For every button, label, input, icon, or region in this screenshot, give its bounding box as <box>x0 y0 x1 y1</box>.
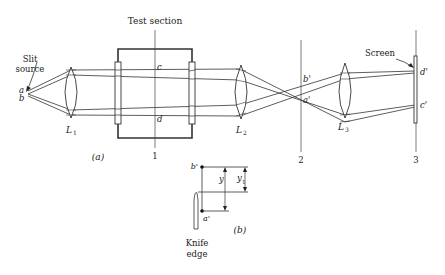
lens-L3-subscript: 3 <box>345 126 349 133</box>
screen <box>414 56 417 123</box>
point-b-prime-label: b' <box>303 74 311 84</box>
caption-a: (a) <box>92 152 105 162</box>
knife-label-2: edge <box>187 249 208 259</box>
point-d-prime-label: d' <box>420 67 428 77</box>
detail-b-prime-label: b' <box>191 162 198 171</box>
lens-L1 <box>65 67 77 118</box>
slit-label-2: source <box>16 64 45 74</box>
lens-L1-subscript: 1 <box>73 129 77 136</box>
point-c-label: c <box>157 62 162 72</box>
point-c-prime-label: c' <box>420 100 427 110</box>
screen-leader-arrow <box>396 59 411 66</box>
window-right <box>189 62 195 124</box>
lens-L2 <box>235 65 247 119</box>
detail-a-prime-label: a' <box>203 214 210 223</box>
lens-L2-subscript: 2 <box>243 129 247 136</box>
rays-L2-to-L3 <box>240 69 345 122</box>
screen-arrowhead-icon <box>408 63 414 68</box>
test-section-label: Test section <box>128 16 183 26</box>
point-a-prime-label: a' <box>303 95 310 105</box>
plane-2-label: 2 <box>298 155 303 165</box>
plane-1-label: 1 <box>152 151 157 161</box>
lens-L3-label: L <box>337 122 344 132</box>
point-d-label: d <box>157 114 163 124</box>
plane-3-label: 3 <box>413 155 418 165</box>
knife-label-1: Knife <box>186 238 209 248</box>
slit-label-1: Slit <box>23 54 38 64</box>
rays-L1-to-L2 <box>71 69 240 116</box>
lens-L1-label: L <box>65 125 72 135</box>
caption-b: (b) <box>234 225 247 235</box>
rays-L3-to-screen <box>345 71 415 122</box>
screen-label: Screen <box>365 48 396 58</box>
lens-L2-label: L <box>235 125 242 135</box>
lens-L3 <box>339 63 351 118</box>
schlieren-diagram: Test section Slit source a b c d b' a' d… <box>0 0 445 275</box>
y-label: y <box>218 174 224 184</box>
y1-subscript: 1 <box>242 179 246 185</box>
point-b-label: b <box>19 93 24 103</box>
